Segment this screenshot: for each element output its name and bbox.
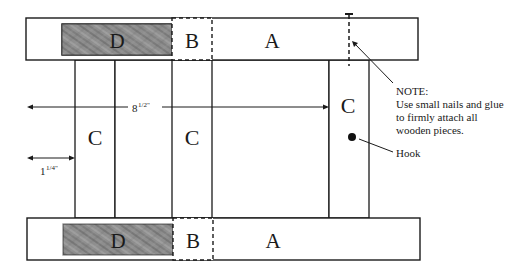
dimension-1-quarter: 1 1/4": [27, 156, 75, 178]
label-c-right: C: [341, 93, 356, 118]
svg-text:1/2": 1/2": [138, 101, 150, 109]
note: NOTE: Use small nails and glue to firmly…: [396, 85, 504, 136]
hook-label: Hook: [396, 147, 421, 159]
top-bar: [26, 14, 418, 66]
label-c-mid: C: [185, 125, 200, 150]
svg-text:1/4": 1/4": [46, 164, 58, 172]
svg-text:Use small nails and glue: Use small nails and glue: [396, 98, 504, 110]
label-bottom-a: A: [265, 229, 281, 253]
label-bottom-d: D: [110, 229, 125, 253]
label-top-d: D: [109, 29, 124, 53]
label-c-left: C: [88, 125, 103, 150]
label-top-b: B: [185, 29, 199, 53]
wooden-frame-diagram: D B A D B A C C C 8 1/2" 1 1/4" Hook NOT…: [0, 0, 522, 271]
svg-text:wooden pieces.: wooden pieces.: [396, 124, 464, 136]
label-bottom-b: B: [186, 229, 200, 253]
label-top-a: A: [264, 29, 280, 53]
svg-text:1: 1: [40, 165, 46, 177]
svg-text:to firmly attach all: to firmly attach all: [396, 111, 478, 123]
svg-text:NOTE:: NOTE:: [396, 85, 428, 97]
piece-middle-frame: [115, 60, 329, 218]
bottom-bar: [27, 218, 420, 260]
hook-icon: [348, 133, 356, 141]
